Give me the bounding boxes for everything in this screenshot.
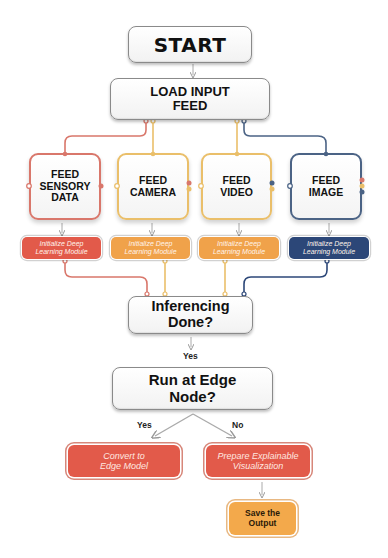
inferencing-label-line1: Inferencing <box>151 299 229 315</box>
init-label-line2: Learning Module <box>124 248 176 256</box>
init-label-line2: Learning Module <box>35 248 87 256</box>
feed-label-line2: CAMERA <box>130 187 176 199</box>
feed-label-line3: DATA <box>51 192 79 204</box>
feed-label-line2: IMAGE <box>309 187 343 199</box>
prepare-label-line1: Prepare Explainable <box>217 451 298 461</box>
init-label-line2: Learning Module <box>213 248 265 256</box>
load-label-line1: LOAD INPUT <box>150 85 229 99</box>
feed-image-node: FEED IMAGE <box>290 153 362 220</box>
run-at-edge-node-decision: Run at Edge Node? <box>112 367 273 410</box>
init-label-line1: Initialize Deep <box>217 240 261 248</box>
convert-label-line2: Edge Model <box>100 461 148 471</box>
save-the-output-node: Save the Output <box>229 502 296 535</box>
convert-to-edge-model-node: Convert to Edge Model <box>68 445 180 477</box>
edge-yes-label: Yes <box>137 420 152 430</box>
prepare-label-line2: Visualization <box>233 461 283 471</box>
convert-label-line1: Convert to <box>103 451 145 461</box>
init-deep-learning-module-video: Initialize Deep Learning Module <box>199 237 279 259</box>
feed-camera-node: FEED CAMERA <box>117 153 189 220</box>
init-label-line1: Initialize Deep <box>40 240 84 248</box>
init-label-line1: Initialize Deep <box>307 240 351 248</box>
start-node: START <box>128 26 252 63</box>
inferencing-done-decision: Inferencing Done? <box>128 296 253 334</box>
save-label-line2: Output <box>249 519 277 528</box>
init-deep-learning-module-image: Initialize Deep Learning Module <box>289 237 369 259</box>
inferencing-yes-label: Yes <box>183 351 198 361</box>
feed-label-line1: FEED <box>312 175 340 187</box>
load-label-line2: FEED <box>173 99 208 113</box>
feed-label-line1: FEED <box>139 175 167 187</box>
feed-sensory-data-node: FEED SENSORY DATA <box>29 153 101 220</box>
feed-label-line2: VIDEO <box>220 187 253 199</box>
edge-label-line2: Node? <box>169 389 216 406</box>
feed-label-line1: FEED <box>222 175 250 187</box>
feed-label-line1: FEED <box>51 169 79 181</box>
edge-label-line1: Run at Edge <box>149 372 237 389</box>
load-input-feed-node: LOAD INPUT FEED <box>110 78 270 120</box>
init-deep-learning-module-sensory: Initialize Deep Learning Module <box>22 237 101 259</box>
feed-video-node: FEED VIDEO <box>201 153 272 220</box>
start-label: START <box>154 34 227 56</box>
init-label-line2: Learning Module <box>303 248 355 256</box>
edge-no-label: No <box>232 420 243 430</box>
init-deep-learning-module-camera: Initialize Deep Learning Module <box>111 237 190 259</box>
inferencing-label-line2: Done? <box>168 315 213 331</box>
prepare-explainable-visualization-node: Prepare Explainable Visualization <box>206 445 310 477</box>
init-label-line1: Initialize Deep <box>129 240 173 248</box>
